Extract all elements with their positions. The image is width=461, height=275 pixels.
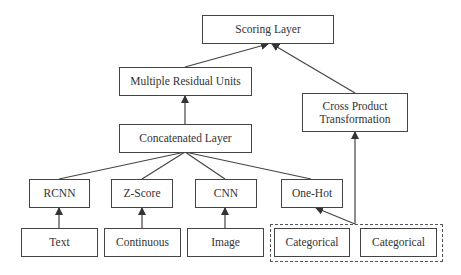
edge-rcnn-concat <box>59 152 185 179</box>
node-text: Text <box>21 228 98 257</box>
node-label: Continuous <box>116 236 169 249</box>
node-categorical-1: Categorical <box>274 228 350 257</box>
node-cnn: CNN <box>195 179 257 208</box>
edge-cross-scoring <box>272 44 355 93</box>
node-label: CNN <box>214 187 238 200</box>
node-label: Scoring Layer <box>235 23 300 36</box>
node-categorical-2: Categorical <box>360 228 437 257</box>
node-label: Concatenated Layer <box>139 132 231 145</box>
edge-onehot-concat <box>185 152 311 179</box>
node-rcnn: RCNN <box>29 179 90 208</box>
node-label: Image <box>211 236 240 249</box>
node-label: RCNN <box>44 187 76 200</box>
node-concatenated-layer: Concatenated Layer <box>119 124 252 153</box>
edge-categorical-onehot <box>316 208 355 224</box>
node-label: Categorical <box>372 236 425 249</box>
node-label: Categorical <box>285 236 338 249</box>
node-scoring-layer: Scoring Layer <box>202 15 334 44</box>
node-cross-product-transformation: Cross Product Transformation <box>302 93 408 132</box>
node-continuous: Continuous <box>104 228 181 257</box>
node-label: One-Hot <box>292 187 332 200</box>
node-one-hot: One-Hot <box>281 179 343 208</box>
node-label: Z-Score <box>123 187 160 200</box>
node-label: Cross Product Transformation <box>303 100 407 126</box>
node-z-score: Z-Score <box>111 179 173 208</box>
edge-residual-scoring <box>185 44 268 67</box>
node-label: Text <box>49 236 69 249</box>
node-image: Image <box>187 228 264 257</box>
node-multiple-residual-units: Multiple Residual Units <box>119 67 252 96</box>
node-label: Multiple Residual Units <box>130 75 241 88</box>
